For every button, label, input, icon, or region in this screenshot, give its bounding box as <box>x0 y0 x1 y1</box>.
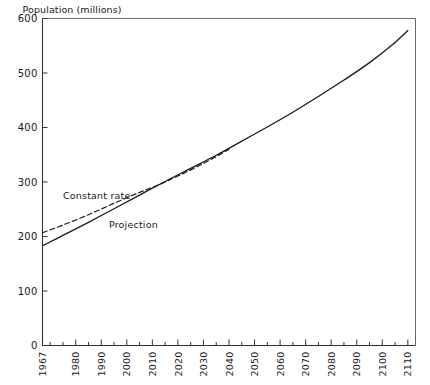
x-tick-label-2090: 2090 <box>351 352 362 377</box>
y-axis-title: Population (millions) <box>23 4 122 15</box>
x-tick-label-2060: 2060 <box>275 352 286 377</box>
annotation-projection: Projection <box>109 219 158 230</box>
y-tick-label-500: 500 <box>18 68 38 79</box>
x-tick-label-2100: 2100 <box>377 352 388 377</box>
y-tick-label-400: 400 <box>18 122 38 133</box>
y-tick-label-200: 200 <box>18 231 38 242</box>
y-tick-label-600: 600 <box>18 13 38 24</box>
x-tick-label-2040: 2040 <box>224 352 235 377</box>
population-projection-chart: 0100200300400500600196719801990200020102… <box>0 0 430 385</box>
y-tick-label-0: 0 <box>31 340 38 351</box>
x-tick-label-2080: 2080 <box>326 352 337 377</box>
x-tick-label-2110: 2110 <box>402 352 413 377</box>
chart-canvas: 0100200300400500600196719801990200020102… <box>0 0 430 385</box>
x-tick-label-2050: 2050 <box>249 352 260 377</box>
x-tick-label-1967: 1967 <box>37 352 48 377</box>
x-tick-label-2000: 2000 <box>121 352 132 377</box>
x-tick-label-2020: 2020 <box>173 352 184 377</box>
x-tick-label-2010: 2010 <box>147 352 158 377</box>
series-line-projection <box>43 30 408 245</box>
x-tick-label-1980: 1980 <box>70 352 81 377</box>
x-tick-label-1990: 1990 <box>96 352 107 377</box>
x-tick-label-2070: 2070 <box>300 352 311 377</box>
y-tick-label-100: 100 <box>18 286 38 297</box>
y-tick-label-300: 300 <box>18 177 38 188</box>
annotation-constant-rate: Constant rate <box>63 190 131 201</box>
x-tick-label-2030: 2030 <box>198 352 209 377</box>
